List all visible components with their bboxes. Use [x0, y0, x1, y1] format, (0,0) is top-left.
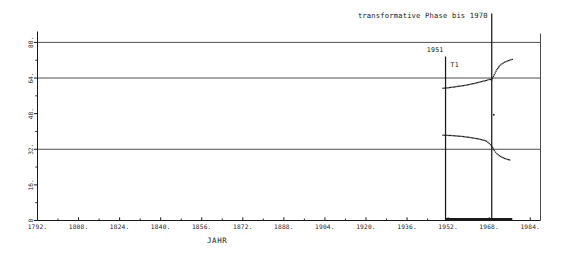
data-point: [512, 59, 513, 60]
data-point: [490, 79, 491, 80]
data-point: [445, 87, 446, 88]
data-point: [494, 150, 495, 151]
data-point: [510, 59, 511, 60]
data-point: [485, 80, 486, 81]
data-point: [498, 67, 499, 68]
data-point: [460, 136, 461, 137]
x-tick-label-1824: 1824.: [110, 223, 130, 230]
data-point: [464, 136, 465, 137]
data-point: [455, 135, 456, 136]
data-point: [472, 83, 473, 84]
marker-year-label: 1951: [427, 46, 444, 54]
data-point: [508, 60, 509, 61]
data-point: [481, 139, 482, 140]
data-point: [491, 79, 492, 80]
data-point: [500, 64, 501, 65]
data-point: [458, 136, 459, 137]
chart-canvas: 016.32.48.64.80.1792.1808.1824.1840.1856…: [0, 0, 568, 258]
phase-annotation-label: transformative Phase bis 1970: [358, 11, 488, 20]
data-point: [476, 82, 477, 83]
data-point: [509, 159, 510, 160]
data-point: [501, 63, 502, 64]
x-tick-label-1856: 1856.: [192, 223, 212, 230]
data-point: [451, 87, 452, 88]
data-point: [480, 139, 481, 140]
data-point: [444, 135, 445, 136]
data-point: [469, 137, 470, 138]
data-point: [499, 65, 500, 66]
x-tick-label-1952: 1952.: [438, 223, 458, 230]
data-point: [445, 135, 446, 136]
data-point: [474, 83, 475, 84]
data-point: [472, 137, 473, 138]
data-point: [477, 82, 478, 83]
data-point: [467, 137, 468, 138]
data-point: [464, 85, 465, 86]
data-point: [465, 136, 466, 137]
data-point: [493, 148, 494, 149]
x-tick-label-1984: 1984.: [520, 223, 540, 230]
data-point: [468, 137, 469, 138]
data-point: [459, 136, 460, 137]
data-point: [453, 135, 454, 136]
data-point: [498, 154, 499, 155]
data-point: [492, 77, 493, 78]
data-point: [465, 85, 466, 86]
data-point: [462, 85, 463, 86]
data-point: [442, 88, 443, 89]
data-point: [495, 72, 496, 73]
data-point: [463, 85, 464, 86]
label-layer: 016.32.48.64.80.1792.1808.1824.1840.1856…: [27, 11, 540, 245]
x-tick-label-1920: 1920.: [356, 223, 376, 230]
data-point: [446, 87, 447, 88]
data-point: [485, 140, 486, 141]
data-point: [487, 79, 488, 80]
y-tick-label-80: 80.: [27, 37, 34, 48]
data-point: [486, 141, 487, 142]
data-point: [449, 87, 450, 88]
x-tick-label-1808: 1808.: [69, 223, 89, 230]
data-point: [491, 146, 492, 147]
data-point: [450, 87, 451, 88]
data-point: [489, 79, 490, 80]
data-point: [483, 140, 484, 141]
data-point-isolated: [493, 114, 495, 116]
data-point: [446, 135, 447, 136]
data-point: [492, 147, 493, 148]
data-point: [442, 135, 443, 136]
series-layer: [442, 59, 513, 220]
data-point: [471, 137, 472, 138]
data-point: [503, 157, 504, 158]
marker-layer: [446, 14, 492, 221]
data-point: [486, 80, 487, 81]
data-point: [493, 76, 494, 77]
data-point: [478, 82, 479, 83]
x-axis-title: JAHR: [207, 236, 227, 245]
data-point: [471, 83, 472, 84]
data-point: [450, 135, 451, 136]
data-point: [500, 156, 501, 157]
x-tick-label-1888: 1888.: [274, 223, 294, 230]
data-point: [503, 62, 504, 63]
y-tick-label-32: 32.: [27, 144, 34, 155]
data-point: [453, 87, 454, 88]
data-point: [490, 144, 491, 145]
data-point: [463, 136, 464, 137]
data-point: [496, 69, 497, 70]
data-point: [455, 86, 456, 87]
data-point: [505, 158, 506, 159]
data-point: [495, 71, 496, 72]
data-point: [499, 155, 500, 156]
y-tick-label-48: 48.: [27, 108, 34, 119]
x-tick-label-1968: 1968.: [479, 223, 499, 230]
data-point: [469, 84, 470, 85]
y-tick-label-64: 64.: [27, 72, 34, 83]
marker-t1-label: T1: [451, 61, 459, 69]
data-point: [496, 153, 497, 154]
series-lower-branch: [442, 135, 510, 161]
x-tick-label-1872: 1872.: [233, 223, 253, 230]
data-point: [507, 60, 508, 61]
data-point: [489, 143, 490, 144]
grid-layer: [38, 42, 541, 149]
data-point: [467, 84, 468, 85]
